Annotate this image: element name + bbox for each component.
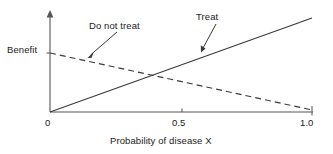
series-label-treat: Treat bbox=[196, 11, 218, 22]
threshold-benefit-chart: Benefit Do not treat Treat 0 0.5 1.0 Pro… bbox=[0, 0, 333, 154]
series-line-do-not-treat bbox=[50, 53, 312, 110]
chart-plot-area bbox=[0, 0, 333, 154]
x-axis-title: Probability of disease X bbox=[110, 135, 212, 146]
series-label-do-not-treat: Do not treat bbox=[89, 20, 140, 31]
annotation-arrowhead-treat bbox=[201, 45, 206, 52]
annotation-arrowhead-do-not-treat bbox=[88, 53, 94, 58]
x-axis-tick-label-0: 0 bbox=[45, 117, 50, 128]
series-line-treat bbox=[50, 18, 312, 112]
annotation-arrow-treat bbox=[203, 24, 217, 49]
annotation-arrow-do-not-treat bbox=[91, 32, 118, 55]
x-axis-tick-label-0.5: 0.5 bbox=[172, 117, 186, 128]
y-axis-up-arrow-icon bbox=[47, 10, 54, 18]
y-axis-label-benefit: Benefit bbox=[7, 44, 37, 55]
x-axis-tick-label-1.0: 1.0 bbox=[300, 117, 314, 128]
